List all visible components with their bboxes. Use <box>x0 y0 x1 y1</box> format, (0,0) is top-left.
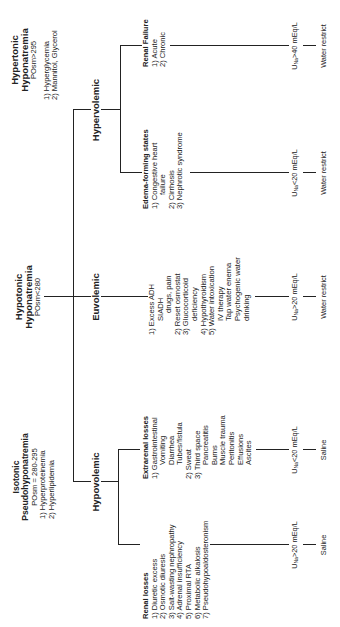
edema-una: UNa<20 mEq/L <box>290 149 301 197</box>
renal-losses-stem-line <box>118 544 140 545</box>
euvolemic-una: UNa>20 mEq/L <box>290 273 301 321</box>
euvolemic-treatment: Water restrict <box>319 275 328 319</box>
edema-una-line <box>190 172 289 173</box>
hypertonic-posm: POsm>295 <box>30 20 39 100</box>
hypotonic-posm: POsm<280 <box>34 257 43 337</box>
euvolemic-item: drinking <box>243 257 252 335</box>
renal-failure-una: UNa>40 mEq/L <box>290 22 301 70</box>
edema-treatment: Water restrict <box>319 151 328 195</box>
hypervolemic-label: Hypervolemic <box>91 77 101 143</box>
hypovolemic-label: Hypovolemic <box>91 450 101 513</box>
isotonic-cause: 2) Hyperlipidemia <box>48 429 57 525</box>
edema-states-block: Edema-forming states 1) Congestive heart… <box>142 129 185 209</box>
extrarenal-item: Ascites <box>245 415 254 479</box>
hypervolemic-branch-line <box>120 45 121 173</box>
renal-failure-block: Renal Failure 1) Acute 2) Chronic <box>142 19 168 67</box>
renal-failure-item: 2) Chronic <box>159 19 168 67</box>
extrarenal-una: UNa<20 mEq/L <box>290 426 301 474</box>
hypertonic-block: Hypertonic Hyponatremia POsm>295 1) Hype… <box>10 20 60 100</box>
euvolemic-item: 1) Excess ADH <box>148 257 157 335</box>
extrarenal-treatment: Saline <box>319 440 328 461</box>
renal-failure-stem-line <box>120 45 142 46</box>
hypotonic-stem-line <box>44 296 74 297</box>
euvolemic-causes-block: 1) Excess ADH SIADH drugs, pain 2) Reset… <box>148 257 251 335</box>
euvolemic-una-line <box>255 296 289 297</box>
edema-item: 3) Nephrotic syndrome <box>176 129 185 209</box>
edema-treatment-line <box>303 172 316 173</box>
renal-failure-treatment: Water restrict <box>319 24 328 68</box>
edema-item: 1) Congestive heart <box>151 129 160 209</box>
renal-losses-block: Renal losses 1) Diuretic excess 2) Osmot… <box>142 521 211 619</box>
extrarenal-una-line <box>256 449 289 450</box>
renal-loss-item: 7) Pseudohypoaldosteronism <box>202 521 211 619</box>
hypertonic-cause: 2) Mannitol, Glycerol <box>51 20 60 100</box>
renal-failure-treatment-line <box>303 45 316 46</box>
extrarenal-losses-block: Extrarenal losses 1) Gastrointestinal Vo… <box>142 415 254 479</box>
euvolemic-stem-line <box>73 296 148 297</box>
renal-failure-una-line <box>170 45 289 46</box>
renal-losses-treatment: Saline <box>319 535 328 556</box>
extrarenal-treatment-line <box>303 449 316 450</box>
extrarenal-losses-stem-line <box>118 449 140 450</box>
hypotonic-block: Hypotonic Hyponatremia POsm<280 <box>14 257 43 337</box>
euvolemic-treatment-line <box>303 296 316 297</box>
hypovolemic-branch-line <box>118 449 119 545</box>
renal-losses-treatment-line <box>303 544 316 545</box>
edema-states-stem-line <box>120 172 142 173</box>
isotonic-block: Isotonic Pseudohyponatremia POsm = 280-2… <box>12 429 57 525</box>
renal-losses-una-line <box>210 544 289 545</box>
hyponatremia-flowchart: Hypertonic Hyponatremia POsm>295 1) Hype… <box>0 0 340 627</box>
euvolemic-label: Euvolemic <box>91 271 101 323</box>
renal-losses-una: UNa>20 mEq/L <box>290 521 301 569</box>
